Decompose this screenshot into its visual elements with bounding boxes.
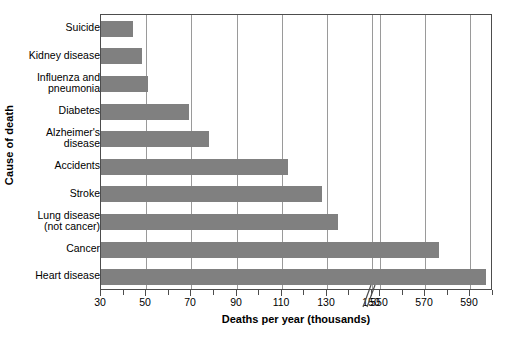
bar <box>101 242 439 258</box>
x-axis-tick <box>258 290 259 295</box>
x-axis-tick <box>447 290 448 295</box>
gridline <box>470 15 471 289</box>
x-axis-tick-label: 570 <box>415 296 433 308</box>
x-axis-tick <box>348 290 349 295</box>
y-axis-category-label: Suicide <box>14 22 100 34</box>
y-axis-category-label: Diabetes <box>14 105 100 117</box>
y-axis-category-label: Heart disease <box>14 270 100 282</box>
y-axis-category-label: Cancer <box>14 243 100 255</box>
y-axis-category-label: Accidents <box>14 160 100 172</box>
x-axis-tick <box>492 290 493 295</box>
x-axis-tick-label: 90 <box>230 296 242 308</box>
x-axis-tick-label: 130 <box>317 296 335 308</box>
x-axis-tick-label: 110 <box>273 296 290 308</box>
y-axis-category-label: Stroke <box>14 188 100 200</box>
bar <box>101 48 142 64</box>
y-axis-category-label: Kidney disease <box>14 50 100 62</box>
bar <box>101 104 189 120</box>
x-axis-tick <box>123 290 124 295</box>
x-axis-tick-labels: 30507090110130150550570590 <box>100 296 492 312</box>
x-axis-tick-label: 50 <box>139 296 151 308</box>
y-axis-category-label: Alzheimer's disease <box>14 127 100 150</box>
x-axis-tick <box>303 290 304 295</box>
x-axis-tick-label: 550 <box>370 296 388 308</box>
y-axis-category-labels: SuicideKidney diseaseInfluenza and pneum… <box>14 14 100 290</box>
bar <box>101 186 322 202</box>
x-axis-tick-label: 30 <box>94 296 106 308</box>
bar <box>101 214 338 230</box>
x-axis-tick <box>213 290 214 295</box>
bar <box>101 76 148 92</box>
bar <box>101 131 209 147</box>
plot-area <box>100 14 492 290</box>
x-axis-tick-label: 70 <box>184 296 196 308</box>
y-axis-category-label: Lung disease (not cancer) <box>14 210 100 233</box>
bar <box>101 21 133 37</box>
x-axis-tick <box>168 290 169 295</box>
bar <box>101 269 486 285</box>
x-axis-tick-label: 590 <box>460 296 478 308</box>
bar-chart: Cause of death SuicideKidney diseaseInfl… <box>0 0 511 340</box>
y-axis-category-label: Influenza and pneumonia <box>14 72 100 95</box>
bar <box>101 159 288 175</box>
x-axis-tick <box>402 290 403 295</box>
x-axis-title: Deaths per year (thousands) <box>100 313 492 325</box>
